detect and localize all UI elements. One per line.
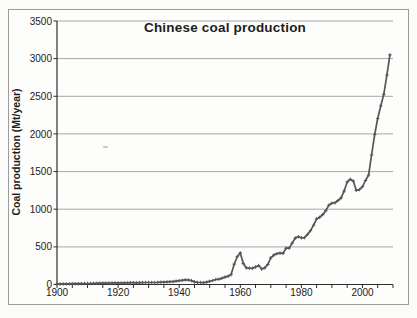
chart-title: Chinese coal production: [57, 20, 393, 35]
scan-artifact: [103, 146, 108, 148]
x-tick-label: 1940: [158, 287, 200, 298]
x-tick-label: 1900: [36, 287, 78, 298]
y-tick-label: 3000: [12, 53, 52, 64]
y-tick-label: 2000: [12, 129, 52, 140]
y-tick-label: 3500: [12, 16, 52, 27]
x-tick-label: 1920: [97, 287, 139, 298]
x-tick-label: 2000: [342, 287, 384, 298]
x-tick-label: 1980: [280, 287, 322, 298]
y-tick-label: 1500: [12, 166, 52, 177]
y-tick-label: 1000: [12, 204, 52, 215]
x-tick-label: 1960: [219, 287, 261, 298]
y-axis-title: Coal production (Mt/year): [10, 87, 24, 217]
y-tick-label: 500: [12, 241, 52, 252]
chart-canvas: [0, 0, 417, 318]
y-tick-label: 2500: [12, 91, 52, 102]
